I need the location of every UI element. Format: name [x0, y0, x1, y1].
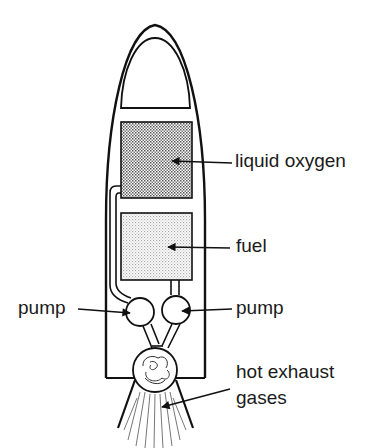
label-exhaust-line1: hot exhaust: [236, 361, 334, 383]
label-pump-right: pump: [236, 297, 284, 319]
label-exhaust-line2: gases: [236, 387, 287, 409]
arrow-fuel: [168, 247, 230, 248]
label-liquid-oxygen: liquid oxygen: [235, 150, 346, 172]
arrow-pump-left: [78, 309, 130, 313]
label-fuel: fuel: [236, 235, 267, 257]
feed-line-left: [143, 324, 159, 348]
label-pump-left: pump: [18, 297, 66, 319]
feed-line-right: [162, 324, 180, 348]
arrow-exhaust: [162, 389, 230, 407]
fuel-pipe: [171, 280, 179, 295]
pump-left: [126, 298, 154, 326]
combustion-chamber: [133, 348, 177, 392]
nozzle-right: [176, 380, 193, 428]
pump-right: [162, 296, 190, 324]
exhaust-plume: [124, 392, 186, 448]
fuel-tank: [121, 213, 192, 280]
lox-tank: [121, 122, 192, 198]
